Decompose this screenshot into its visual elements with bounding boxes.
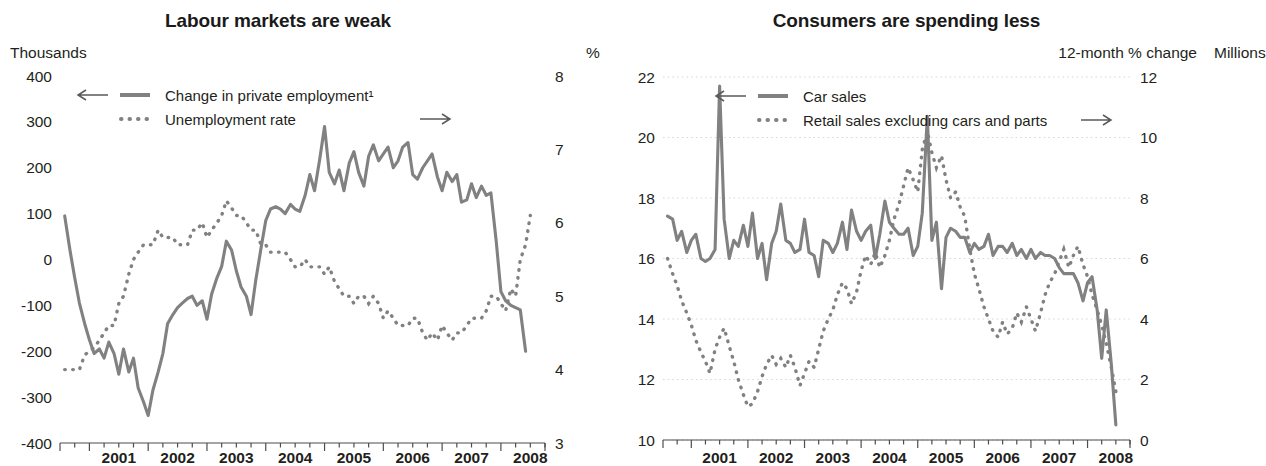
y-axis-tick-label-left: -200 (21, 343, 52, 360)
y-axis-tick-label-left: 14 (638, 311, 656, 328)
x-axis-tick-label: 2004 (278, 449, 313, 466)
x-axis-tick-label: 2006 (985, 449, 1020, 466)
data-series-dotted (668, 131, 1116, 406)
y-axis-tick-label-left: 0 (43, 251, 52, 268)
y-axis-tick-label-right: 2 (1140, 371, 1149, 388)
legend-group: Car salesRetail sales excluding cars and… (716, 88, 1111, 129)
y-axis-tick-label-left: 18 (638, 190, 655, 207)
legend-group: Change in private employment¹Unemploymen… (78, 87, 450, 128)
y-axis-tick-label-left: 100 (26, 205, 52, 222)
y-axis-tick-label-left: -300 (21, 389, 52, 406)
chart-panel-consumers: Consumers are spending less Millions 12-… (598, 0, 1203, 466)
y-axis-tick-label-right: 4 (1140, 311, 1149, 328)
y-axis-tick-label-right: 8 (555, 68, 564, 85)
plot-area-consumers: 2220181614121012108642020012002200320042… (598, 0, 1203, 466)
y-axis-tick-label-right: 0 (1140, 432, 1149, 449)
x-axis-tick-label: 2003 (219, 449, 254, 466)
data-series-group (65, 126, 531, 415)
y-axis-tick-label-right: 12 (1140, 69, 1157, 86)
y-axis-tick-label-left: 200 (26, 159, 52, 176)
x-axis-tick-label: 2005 (929, 449, 964, 466)
y-axis-tick-label-right: 7 (555, 141, 564, 158)
legend-label: Retail sales excluding cars and parts (803, 112, 1047, 129)
legend-arrow-left-icon (78, 90, 108, 100)
data-series-solid (65, 126, 526, 415)
y-axis-tick-label-left: 22 (638, 69, 655, 86)
plot-area-labour: 4003002001000-100-200-300-40087654320012… (0, 0, 600, 466)
data-series-solid (668, 86, 1116, 425)
chart-panel-labour: Labour markets are weak Thousands % 4003… (0, 0, 600, 466)
x-axis-tick-label: 2006 (395, 449, 430, 466)
x-axis-tick-label: 2002 (759, 449, 793, 466)
x-axis-tick-label: 2002 (160, 449, 194, 466)
y-axis-tick-label-right: 6 (555, 214, 564, 231)
x-axis-tick-label: 2007 (454, 449, 488, 466)
x-axis-tick-label: 2001 (102, 449, 137, 466)
legend-arrow-left-icon (716, 91, 746, 101)
y-axis-tick-label-right: 4 (555, 361, 564, 378)
legend-label: Unemployment rate (165, 111, 296, 128)
x-axis-tick-label: 2001 (702, 449, 737, 466)
y-axis-tick-label-left: 400 (26, 68, 52, 85)
x-axis-tick-label: 2005 (337, 449, 372, 466)
data-series-group (668, 86, 1116, 425)
y-axis-tick-label-left: 20 (638, 129, 656, 146)
y-axis-tick-label-right: 10 (1140, 129, 1158, 146)
legend-label: Change in private employment¹ (165, 87, 373, 104)
x-axis-tick-label: 2004 (872, 449, 907, 466)
legend-arrow-right-icon (420, 114, 450, 124)
x-axis-tick-label: 2007 (1042, 449, 1076, 466)
y-axis-tick-label-right: 3 (555, 435, 564, 452)
chart-svg-labour: 4003002001000-100-200-300-40087654320012… (0, 0, 600, 466)
axis-unit-left-millions: Millions (1214, 44, 1266, 62)
y-axis-tick-label-right: 5 (555, 288, 564, 305)
y-axis-tick-label-left: 300 (26, 113, 52, 130)
y-axis-tick-label-right: 6 (1140, 250, 1149, 267)
x-axis-tick-label: 2003 (816, 449, 851, 466)
x-axis-tick-label: 2008 (513, 449, 548, 466)
y-axis-tick-label-left: 10 (638, 432, 656, 449)
y-axis-tick-label-left: -100 (21, 297, 52, 314)
x-axis-tick-label: 2008 (1099, 449, 1134, 466)
y-axis-tick-label-left: 16 (638, 250, 655, 267)
data-series-dotted (65, 201, 531, 370)
legend-arrow-right-icon (1081, 115, 1111, 125)
y-axis-tick-label-right: 8 (1140, 190, 1149, 207)
y-axis-tick-label-left: 12 (638, 371, 655, 388)
axes-group (663, 440, 1130, 448)
chart-svg-consumers: 2220181614121012108642020012002200320042… (598, 0, 1203, 466)
legend-label: Car sales (803, 88, 866, 105)
y-axis-tick-label-left: -400 (21, 435, 52, 452)
